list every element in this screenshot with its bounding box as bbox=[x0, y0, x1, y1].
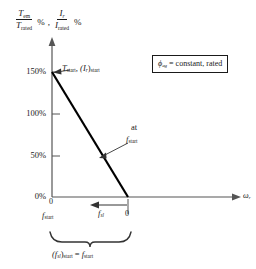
curve-note-line2: fstart bbox=[126, 135, 137, 145]
start-point-label: Tstart, (Ir)start bbox=[62, 64, 100, 74]
right-zero-label: 0 bbox=[125, 210, 129, 218]
x-axis bbox=[52, 194, 241, 201]
range-brace bbox=[50, 232, 131, 247]
axis-fstart-label: fstart bbox=[42, 211, 53, 221]
origin-zero-label: 0 bbox=[49, 198, 53, 206]
data-series-line bbox=[52, 72, 128, 197]
legend-box: ϕag = constant, rated bbox=[152, 55, 228, 73]
y-tick-label-100: 100% bbox=[20, 109, 46, 118]
x-axis-label: ωr bbox=[243, 192, 251, 201]
y-tick-label-150: 150% bbox=[20, 67, 46, 76]
y-tick-label-50: 50% bbox=[20, 151, 46, 160]
legend-text: = constant, rated bbox=[169, 59, 222, 68]
slip-label: fsl bbox=[98, 209, 104, 219]
y-axis bbox=[49, 37, 56, 197]
slip-arrow bbox=[90, 202, 127, 209]
brace-equation: (fsl)start = fstart bbox=[52, 250, 93, 260]
y-tick-label-0: 0% bbox=[20, 192, 46, 201]
curve-note-line1: at bbox=[131, 123, 137, 132]
curve-note-leader bbox=[99, 143, 128, 159]
